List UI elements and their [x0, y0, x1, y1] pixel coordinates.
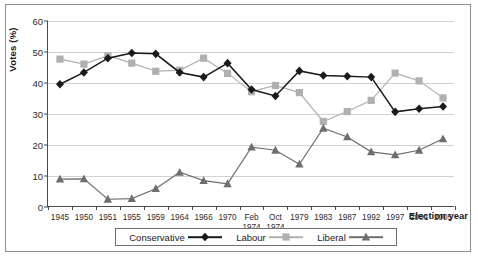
y-tick-label: 30	[32, 109, 43, 120]
x-tick-label: 1979	[290, 213, 308, 223]
y-tick-label: 40	[32, 78, 43, 89]
data-point	[439, 94, 446, 101]
data-point	[343, 72, 351, 81]
chart-legend: ConservativeLabourLiberal	[115, 228, 397, 246]
data-point	[80, 60, 87, 67]
data-point	[367, 147, 375, 155]
data-point	[368, 97, 375, 104]
x-tick-label: 1959	[147, 213, 165, 223]
data-point	[296, 89, 303, 96]
x-tick-label: 1987	[338, 213, 356, 223]
data-point	[128, 60, 135, 67]
data-point	[152, 184, 160, 192]
data-point	[80, 68, 88, 77]
x-tick-label: 1955	[123, 213, 141, 223]
y-tick-label: 60	[32, 16, 43, 27]
x-tick-label: 2005	[434, 213, 452, 223]
data-point	[319, 71, 327, 80]
series-line	[60, 53, 443, 112]
x-tick-label: 1970	[218, 213, 236, 223]
data-point	[272, 82, 279, 89]
legend-item-labour: Labour	[236, 232, 303, 243]
data-point	[200, 55, 207, 62]
x-tick-label: 1951	[99, 213, 117, 223]
legend-square-icon	[269, 232, 303, 242]
data-point	[295, 160, 303, 168]
x-tick-label: 1950	[75, 213, 93, 223]
x-tick-label: 1966	[195, 213, 213, 223]
chart-figure: Votes (%) Election year 0102030405060 19…	[0, 0, 478, 262]
series-line	[60, 128, 443, 199]
x-tick-label: 1983	[314, 213, 332, 223]
data-point	[392, 69, 399, 76]
series-layer	[48, 21, 455, 207]
y-tick-label: 10	[32, 171, 43, 182]
data-point	[247, 143, 255, 151]
y-tick-label: 50	[32, 47, 43, 58]
series-conservative	[56, 49, 447, 117]
data-point	[224, 70, 231, 77]
legend-label: Liberal	[317, 232, 346, 243]
legend-label: Labour	[236, 232, 266, 243]
data-point	[415, 146, 423, 154]
series-liberal	[56, 124, 447, 203]
data-point	[415, 77, 422, 84]
y-tick-label: 20	[32, 140, 43, 151]
x-tick-label: 2001	[410, 213, 428, 223]
x-tick-label: 1945	[51, 213, 69, 223]
data-point	[344, 108, 351, 115]
legend-label: Conservative	[129, 232, 184, 243]
legend-item-liberal: Liberal	[317, 232, 383, 243]
legend-item-conservative: Conservative	[129, 232, 221, 243]
x-tick-mark	[455, 206, 456, 210]
legend-triangle-icon	[349, 232, 383, 242]
data-point	[439, 134, 447, 142]
plot-area: 0102030405060 19451950195119551959196419…	[47, 21, 454, 207]
data-point	[152, 68, 159, 75]
y-tick-label: 0	[38, 202, 43, 213]
legend-diamond-icon	[188, 232, 222, 242]
data-point	[56, 56, 63, 63]
data-point	[56, 80, 64, 89]
x-tick-label: 1964	[171, 213, 189, 223]
y-axis-title: Votes (%)	[7, 2, 18, 98]
data-point	[128, 49, 136, 58]
data-point	[200, 73, 208, 82]
data-point	[415, 104, 423, 113]
x-tick-label: 1992	[362, 213, 380, 223]
data-point	[175, 168, 183, 176]
x-tick-label: 1997	[386, 213, 404, 223]
data-point	[439, 102, 447, 111]
